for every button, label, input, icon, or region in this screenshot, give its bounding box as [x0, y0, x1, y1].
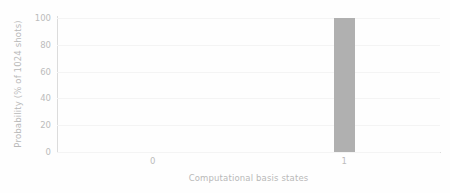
plot-area	[57, 18, 440, 152]
y-axis-tick-label: 80	[25, 41, 51, 50]
y-axis-tick-label: 100	[25, 14, 51, 23]
grid-line	[57, 125, 440, 126]
grid-line	[57, 45, 440, 46]
bar	[334, 18, 355, 152]
y-axis-tick-label: 20	[25, 121, 51, 130]
grid-line	[57, 18, 440, 19]
y-axis-tick-label: 0	[25, 148, 51, 157]
grid-line	[57, 72, 440, 73]
y-axis-tick-labels: 020406080100	[22, 18, 51, 152]
x-axis-tick-labels: 01	[57, 157, 440, 169]
bar-chart: Probability (% of 1024 shots) 0204060801…	[0, 0, 450, 193]
y-axis-tick-label: 60	[25, 68, 51, 77]
x-axis-tick-label: 1	[324, 157, 364, 166]
y-axis-tick-label: 40	[25, 94, 51, 103]
x-axis-title: Computational basis states	[57, 173, 440, 183]
grid-line	[57, 98, 440, 99]
grid-line	[57, 152, 440, 153]
x-axis-tick-label: 0	[133, 157, 173, 166]
